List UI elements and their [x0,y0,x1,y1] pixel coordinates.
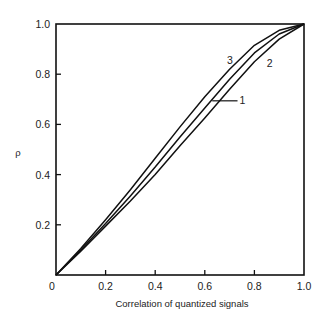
y-tick-label: 0.8 [35,68,50,80]
x-axis-label: Correlation of quantized signals [115,298,248,309]
y-axis-label: ρ [15,147,21,158]
x-tick-label: 0.4 [148,280,163,292]
x-axis-ticks: 00.20.40.60.81.0 [49,270,311,292]
x-tick-label: 0.8 [247,280,262,292]
y-tick-label: 0.6 [35,118,50,130]
curve-label-1: 1 [240,94,246,106]
y-tick-label: 0.4 [35,169,50,181]
x-tick-label: 0.6 [197,280,212,292]
curve-label-3: 3 [227,54,233,66]
x-tick-label: 0.2 [98,280,113,292]
x-tick-label: 0 [49,280,55,292]
y-axis-ticks: 0.20.40.60.81.0 [35,18,61,231]
chart: 0.20.40.60.81.0 00.20.40.60.81.0 321 ρ C… [0,0,325,322]
curve-label-2: 2 [267,57,273,69]
y-tick-label: 1.0 [35,18,50,30]
x-tick-label: 1.0 [297,280,312,292]
y-tick-label: 0.2 [35,219,50,231]
